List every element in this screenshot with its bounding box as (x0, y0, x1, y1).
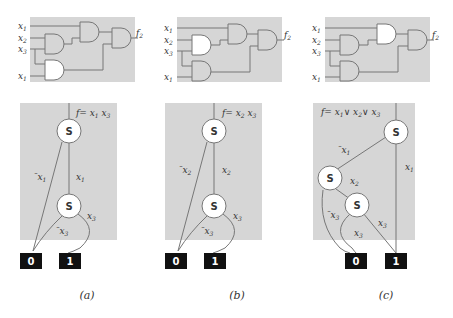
bdd-c: S S S f= x1∨ x2∨ x3 ¯x1 x1 x2 ¯x3 x3 x3 … (313, 103, 415, 269)
input-label-x2: x2 (18, 33, 27, 44)
node-label: S (326, 173, 333, 184)
input-label-x1: x1 (312, 23, 321, 34)
and-gate (340, 61, 359, 81)
circuit-a: x1 x2 x3 x1 f2 (18, 17, 143, 82)
caption-b: (b) (229, 289, 245, 302)
and-gate-highlighted (377, 24, 396, 44)
terminal-0-label: 0 (353, 256, 360, 267)
node-label: S (392, 127, 399, 138)
and-gate-output (258, 30, 277, 50)
input-label-x1: x1 (164, 72, 173, 83)
function-formula: f= x1∨ x2∨ x3 (320, 107, 381, 118)
and-gate-highlighted (45, 60, 64, 80)
circuit-c: x1 x2 x3 x1 f2 (312, 17, 439, 83)
terminal-1-label: 1 (67, 256, 74, 267)
and-gate (340, 35, 359, 55)
input-label-x2: x2 (312, 35, 321, 46)
and-gate-output (112, 28, 131, 48)
terminal-1-label: 1 (393, 256, 400, 267)
terminal-0-label: 0 (28, 256, 35, 267)
output-label-f2: f2 (431, 30, 439, 41)
output-label-f2: f2 (135, 28, 143, 39)
input-label-x1: x1 (18, 71, 27, 82)
input-label-x3: x3 (312, 46, 321, 57)
figure: x1 x2 x3 x1 f2 S S f= x1 x3 ¯x1 x1 x3 ¯x… (0, 0, 453, 318)
panel-b: x1 x2 x3 x1 f2 S S f= x2 x3 ¯x2 x2 x3 ¯x… (164, 17, 291, 302)
and-gate (192, 61, 211, 81)
node-label: S (65, 201, 72, 212)
caption-c: (c) (379, 289, 394, 302)
circuit-b: x1 x2 x3 x1 f2 (164, 17, 291, 83)
input-label-x3: x3 (18, 44, 27, 55)
input-label-x2: x2 (164, 35, 173, 46)
and-gate-output (408, 30, 427, 50)
node-label: S (65, 126, 72, 137)
bdd-b: S S f= x2 x3 ¯x2 x2 x3 ¯x3 0 1 (165, 103, 262, 269)
function-formula: f= x1 x3 (75, 108, 111, 119)
node-label: S (210, 201, 217, 212)
and-gate-highlighted (192, 35, 211, 55)
terminal-1-label: 1 (212, 256, 219, 267)
function-formula: f= x2 x3 (221, 108, 257, 119)
input-label-x3: x3 (164, 46, 173, 57)
input-label-x1: x1 (164, 23, 173, 34)
bdd-a: S S f= x1 x3 ¯x1 x1 x3 ¯x3 0 1 (20, 103, 117, 269)
node-label: S (210, 126, 217, 137)
and-gate (80, 22, 99, 42)
input-label-x1: x1 (18, 21, 27, 32)
node-label: S (353, 200, 360, 211)
and-gate (45, 34, 64, 54)
panel-c: x1 x2 x3 x1 f2 S S S f= x1∨ x2∨ x3 (312, 17, 439, 302)
output-label-f2: f2 (283, 30, 291, 41)
panel-a: x1 x2 x3 x1 f2 S S f= x1 x3 ¯x1 x1 x3 ¯x… (18, 17, 143, 302)
caption-a: (a) (79, 289, 94, 302)
input-label-x1: x1 (312, 72, 321, 83)
and-gate (228, 24, 247, 44)
terminal-0-label: 0 (173, 256, 180, 267)
